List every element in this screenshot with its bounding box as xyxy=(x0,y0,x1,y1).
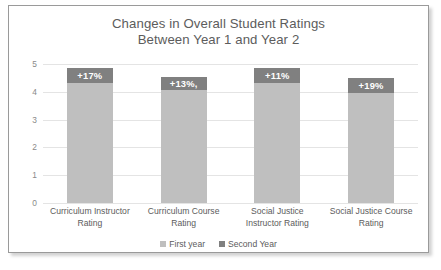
bar-slot: +19% xyxy=(324,64,418,203)
bar-segment-second-year[interactable]: +13%, xyxy=(161,77,207,91)
bar-slot: +17% xyxy=(43,64,137,203)
bar-slot: +11% xyxy=(231,64,325,203)
x-axis-category-line: Curriculum Instructor xyxy=(43,206,137,218)
chart-title-line-1: Changes in Overall Student Ratings xyxy=(9,16,428,32)
bar-segment-first-year[interactable] xyxy=(161,90,207,203)
x-axis-category-line: Rating xyxy=(137,218,231,230)
bar-segment-first-year[interactable] xyxy=(348,93,394,203)
x-axis-category-line: Rating xyxy=(43,218,137,230)
x-axis-category-label: Curriculum InstructorRating xyxy=(43,206,137,229)
stacked-bar[interactable]: +19% xyxy=(348,78,394,203)
bar-group: +17%+13%,+11%+19% xyxy=(43,64,418,203)
y-axis-tick-label: 4 xyxy=(32,87,37,97)
y-axis-tick-label: 0 xyxy=(32,198,37,208)
bar-segment-second-year[interactable]: +17% xyxy=(67,68,113,83)
x-axis-category-line: Rating xyxy=(324,218,418,230)
bar-segment-second-year[interactable]: +19% xyxy=(348,78,394,93)
y-axis-tick-label: 2 xyxy=(32,142,37,152)
x-axis-category-label: Social JusticeInstructor Rating xyxy=(231,206,325,229)
chart-title: Changes in Overall Student Ratings Betwe… xyxy=(9,16,428,47)
bar-segment-second-year[interactable]: +11% xyxy=(254,68,300,83)
x-axis-category-line: Social Justice Course xyxy=(324,206,418,218)
y-axis-tick-label: 5 xyxy=(32,59,37,69)
legend-label-first-year: First year xyxy=(169,239,205,249)
legend-item-second-year: Second Year xyxy=(219,239,277,249)
x-axis-category-label: Curriculum CourseRating xyxy=(137,206,231,229)
legend-label-second-year: Second Year xyxy=(228,239,277,249)
legend-swatch-first-year xyxy=(160,241,166,247)
chart-legend: First year Second Year xyxy=(9,239,428,249)
stacked-bar[interactable]: +17% xyxy=(67,68,113,203)
stacked-bar[interactable]: +13%, xyxy=(161,77,207,203)
bar-segment-first-year[interactable] xyxy=(254,83,300,203)
x-axis-category-line: Social Justice xyxy=(231,206,325,218)
gridline: 0 xyxy=(43,203,418,204)
x-axis-category-line: Instructor Rating xyxy=(231,218,325,230)
x-axis-labels: Curriculum InstructorRatingCurriculum Co… xyxy=(43,206,418,236)
x-axis-category-label: Social Justice CourseRating xyxy=(324,206,418,229)
chart-container: Changes in Overall Student Ratings Betwe… xyxy=(8,5,429,253)
x-axis-category-line: Curriculum Course xyxy=(137,206,231,218)
bar-segment-first-year[interactable] xyxy=(67,83,113,203)
bar-slot: +13%, xyxy=(137,64,231,203)
plot-area: 543210 +17%+13%,+11%+19% xyxy=(43,64,418,203)
y-axis-tick-label: 1 xyxy=(32,170,37,180)
y-axis-tick-label: 3 xyxy=(32,115,37,125)
stacked-bar[interactable]: +11% xyxy=(254,68,300,203)
legend-item-first-year: First year xyxy=(160,239,205,249)
legend-swatch-second-year xyxy=(219,241,225,247)
chart-title-line-2: Between Year 1 and Year 2 xyxy=(9,32,428,48)
